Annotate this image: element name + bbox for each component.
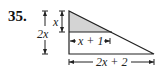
label-small-height: x <box>53 16 58 28</box>
label-large-base: 2x + 2 <box>96 56 127 68</box>
label-small-base: x + 1 <box>78 35 103 47</box>
problem-figure: 35. <box>0 0 164 75</box>
dimension-arrow-small-height <box>59 11 65 32</box>
label-large-height: 2x <box>37 28 48 40</box>
